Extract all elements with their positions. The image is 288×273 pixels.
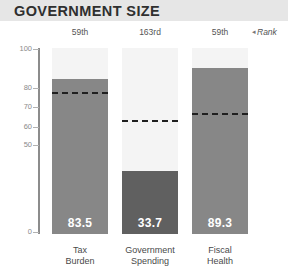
y-tick-mark-100 [33, 49, 39, 50]
plot-area: 100 80 70 60 50 0 83.5 33.7 89.3 [0, 42, 288, 238]
y-tick-mark-60 [33, 127, 39, 128]
category-label-tax-burden: Tax Burden [48, 245, 112, 266]
rank-legend-label: Rank [257, 27, 277, 37]
reference-line-tax-burden [52, 92, 108, 94]
y-tick-mark-80 [33, 88, 39, 89]
bar-value-tax-burden: 83.5 [52, 216, 108, 230]
rank-value-government-spending: 163rd [122, 27, 178, 37]
y-tick-label-80: 80 [10, 84, 32, 92]
chart-title-band: GOVERNMENT SIZE [0, 0, 288, 21]
rank-value-tax-burden: 59th [52, 27, 108, 37]
reference-line-fiscal-health [192, 113, 248, 115]
y-tick-label-60: 60 [10, 123, 32, 131]
rank-value-fiscal-health: 59th [192, 27, 248, 37]
bar-tax-burden[interactable]: 83.5 [52, 79, 108, 234]
bar-value-fiscal-health: 89.3 [192, 216, 248, 230]
y-tick-label-70: 70 [10, 103, 32, 111]
category-label-government-spending: Government Spending [116, 245, 184, 266]
bar-government-spending[interactable]: 33.7 [122, 171, 178, 234]
y-tick-label-0: 0 [10, 228, 32, 236]
rank-legend: ◂Rank [252, 27, 277, 37]
y-axis-line [38, 48, 40, 234]
bar-value-government-spending: 33.7 [122, 216, 178, 230]
rank-legend-arrow-icon: ◂ [252, 28, 256, 35]
bar-fiscal-health[interactable]: 89.3 [192, 68, 248, 234]
y-tick-label-50: 50 [10, 141, 32, 149]
y-tick-mark-70 [33, 107, 39, 108]
y-tick-label-100: 100 [10, 45, 32, 53]
category-label-fiscal-health: Fiscal Health [188, 245, 252, 266]
y-tick-mark-0 [33, 232, 39, 233]
y-tick-mark-50 [33, 145, 39, 146]
page-title: GOVERNMENT SIZE [14, 3, 160, 19]
reference-line-government-spending [122, 120, 178, 122]
